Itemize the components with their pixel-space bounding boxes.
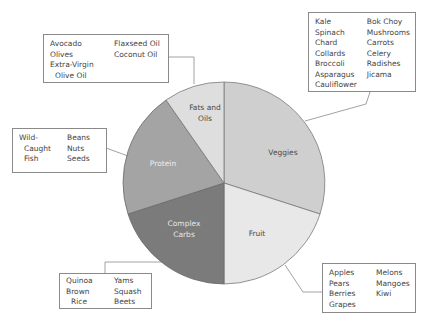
item: Olives: [50, 50, 114, 61]
item: Spinach: [315, 28, 367, 39]
item: Brown: [66, 287, 114, 298]
item: Flaxseed Oil: [114, 39, 160, 50]
label-veggies: Veggies: [268, 148, 297, 157]
item: Broccoli: [315, 59, 367, 70]
item: Asparagus: [315, 70, 367, 81]
label-protein: Protein: [150, 159, 177, 168]
item: Radishes: [367, 59, 410, 70]
item: Kiwi: [376, 289, 410, 300]
leader-complex: [105, 262, 162, 273]
callout-veggies: Kale Spinach Chard Collards Broccoli Asp…: [308, 12, 416, 92]
item: Rice: [66, 297, 114, 308]
leader-fats: [168, 57, 194, 84]
item: Coconut Oil: [114, 50, 160, 61]
item: Jicama: [367, 70, 410, 81]
item: Collards: [315, 49, 367, 60]
item: Berries: [329, 289, 376, 300]
item: Chard: [315, 38, 367, 49]
item: Nuts: [67, 144, 90, 155]
item: Beets: [114, 297, 142, 308]
item: Seeds: [67, 154, 90, 165]
item: Squash: [114, 287, 142, 298]
item: Pears: [329, 279, 376, 290]
item: Cauliflower: [315, 80, 367, 91]
callout-protein: Wild- Caught Fish Beans Nuts Seeds: [12, 128, 107, 173]
item: Apples: [329, 268, 376, 279]
item: Yams: [114, 276, 142, 287]
item: Celery: [367, 49, 410, 60]
leader-veggies: [305, 92, 370, 121]
leader-fruit: [285, 265, 322, 292]
callout-complex-carbs: Quinoa Brown Rice Yams Squash Beets: [59, 273, 152, 309]
label-complex-2: Carbs: [173, 230, 195, 239]
item: Mangoes: [376, 279, 410, 290]
item: Quinoa: [66, 276, 114, 287]
callout-fruit: Apples Pears Berries Grapes Melons Mango…: [322, 263, 416, 313]
item: Mushrooms: [367, 28, 410, 39]
label-fats-1: Fats and: [189, 103, 221, 112]
item: Kale: [315, 17, 367, 28]
item: Extra-Virgin: [50, 60, 114, 71]
item: Grapes: [329, 300, 376, 311]
item: Caught: [19, 144, 67, 155]
item: Wild-: [19, 133, 67, 144]
label-complex-1: Complex: [168, 219, 201, 228]
item: Melons: [376, 268, 410, 279]
item: Bok Choy: [367, 17, 410, 28]
item: Olive Oil: [50, 71, 114, 82]
label-fruit: Fruit: [249, 229, 266, 238]
callout-fats-and-oils: Avocado Olives Extra-Virgin Olive Oil Fl…: [43, 34, 169, 83]
item: Beans: [67, 133, 90, 144]
item: Carrots: [367, 38, 410, 49]
item: Fish: [19, 154, 67, 165]
label-fats-2: Oils: [198, 114, 212, 123]
item: Avocado: [50, 39, 114, 50]
leader-protein: [106, 148, 128, 156]
